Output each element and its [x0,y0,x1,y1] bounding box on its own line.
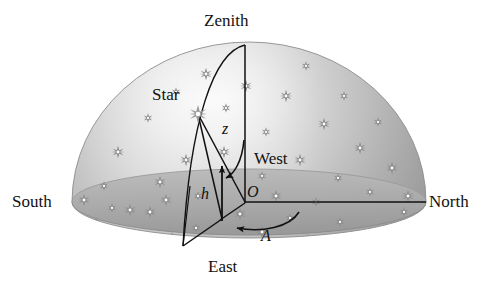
star-label: Star [152,86,179,103]
diagram-canvas [0,0,491,288]
south-label: South [12,193,52,210]
zenith-distance-label: z [222,121,228,137]
altitude-label: h [201,186,209,202]
north-label: North [429,193,469,210]
east-label: East [208,258,237,275]
zenith-label: Zenith [204,12,248,29]
origin-label: O [247,184,259,200]
west-label: West [254,150,288,167]
celestial-sphere-diagram: Zenith Star z West h O A South North Eas… [0,0,491,288]
azimuth-label: A [261,228,271,244]
